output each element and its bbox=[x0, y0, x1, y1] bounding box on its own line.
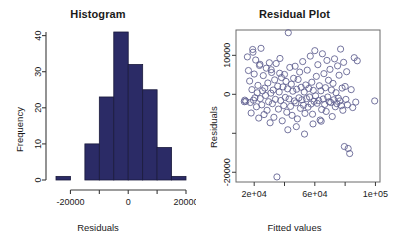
residual-y-tick-label: 0 bbox=[222, 92, 232, 97]
residual-points bbox=[241, 30, 378, 180]
histogram-bar bbox=[128, 64, 142, 180]
histogram-y-tick-label: 20 bbox=[33, 103, 43, 113]
histogram-panel: Histogram Frequency 010203040-2000002000… bbox=[0, 0, 196, 244]
scatter-point bbox=[247, 78, 253, 84]
histogram-title: Histogram bbox=[0, 8, 196, 20]
scatter-point bbox=[309, 79, 315, 85]
histogram-bar bbox=[114, 32, 128, 180]
scatter-point bbox=[279, 118, 285, 124]
histogram-y-tick-label: 10 bbox=[33, 139, 43, 149]
scatter-point bbox=[348, 87, 354, 93]
histogram-bar bbox=[172, 176, 186, 180]
residual-x-tick-label: 6e+04 bbox=[302, 189, 327, 199]
scatter-point bbox=[260, 73, 266, 79]
figure-panel-pair: Histogram Frequency 010203040-2000002000… bbox=[0, 0, 393, 244]
scatter-point bbox=[251, 71, 257, 77]
scatter-point bbox=[248, 110, 254, 116]
scatter-point bbox=[307, 53, 313, 59]
scatter-point bbox=[266, 60, 272, 66]
histogram-x-axis-label: Residuals bbox=[0, 222, 196, 233]
histogram-bar bbox=[56, 176, 70, 180]
scatter-point bbox=[302, 110, 308, 116]
scatter-point bbox=[282, 94, 288, 100]
residual-plot-title: Residual Plot bbox=[196, 8, 393, 20]
scatter-point bbox=[312, 93, 318, 99]
scatter-point bbox=[341, 59, 347, 65]
scatter-point bbox=[309, 111, 315, 117]
scatter-point bbox=[285, 127, 291, 133]
scatter-point bbox=[304, 67, 310, 73]
histogram-y-tick-label: 30 bbox=[33, 67, 43, 77]
residual-plot-area: -200000100002e+046e+041e+05 bbox=[196, 22, 393, 222]
scatter-point bbox=[291, 98, 297, 104]
scatter-point bbox=[353, 99, 359, 105]
scatter-point bbox=[271, 114, 277, 120]
scatter-point bbox=[267, 120, 273, 126]
scatter-point bbox=[294, 116, 300, 122]
scatter-point bbox=[327, 66, 333, 72]
scatter-point bbox=[325, 77, 331, 83]
scatter-point bbox=[337, 46, 343, 52]
residual-x-tick-label: 2e+04 bbox=[242, 189, 267, 199]
scatter-point bbox=[281, 103, 287, 109]
scatter-point bbox=[288, 81, 294, 87]
scatter-point bbox=[265, 99, 271, 105]
scatter-point bbox=[261, 111, 267, 117]
scatter-point bbox=[330, 80, 336, 86]
residual-x-tick-label: 1e+05 bbox=[363, 189, 388, 199]
scatter-point bbox=[322, 85, 328, 91]
scatter-point bbox=[336, 72, 342, 78]
residual-plot-x-axis-label: Fitted values bbox=[196, 222, 393, 233]
scatter-point bbox=[245, 67, 251, 73]
scatter-point bbox=[265, 80, 271, 86]
residual-plot-panel: Residual Plot Residuals -200000100002e+0… bbox=[196, 0, 393, 244]
scatter-point bbox=[264, 107, 270, 113]
histogram-bar bbox=[99, 97, 113, 180]
scatter-point bbox=[319, 51, 325, 57]
histogram-y-tick-label: 0 bbox=[33, 177, 43, 182]
scatter-point bbox=[293, 124, 299, 130]
scatter-point bbox=[310, 121, 316, 127]
scatter-point bbox=[272, 77, 278, 83]
scatter-point bbox=[324, 57, 330, 63]
scatter-point bbox=[269, 101, 275, 107]
scatter-point bbox=[313, 73, 319, 79]
scatter-point bbox=[312, 48, 318, 54]
scatter-point bbox=[329, 113, 335, 119]
residual-y-tick-label: 10000 bbox=[222, 43, 232, 68]
residual-y-tick-label: -20000 bbox=[222, 158, 232, 186]
scatter-point bbox=[290, 88, 296, 94]
scatter-point bbox=[297, 69, 303, 75]
scatter-point bbox=[301, 131, 307, 137]
scatter-point bbox=[244, 54, 250, 60]
scatter-point bbox=[291, 75, 297, 81]
histogram-x-tick-label: 20000 bbox=[173, 197, 196, 207]
scatter-point bbox=[259, 102, 265, 108]
histogram-bar bbox=[143, 90, 157, 180]
scatter-point bbox=[258, 45, 264, 51]
scatter-point bbox=[341, 143, 347, 149]
histogram-bar bbox=[85, 144, 99, 180]
scatter-point bbox=[277, 55, 283, 61]
scatter-point bbox=[322, 101, 328, 107]
histogram-y-tick-label: 40 bbox=[33, 31, 43, 41]
histogram-x-tick-label: 0 bbox=[126, 197, 131, 207]
scatter-point bbox=[328, 87, 334, 93]
scatter-point bbox=[285, 30, 291, 36]
scatter-point bbox=[255, 82, 261, 88]
scatter-point bbox=[274, 174, 280, 180]
residual-plot-frame bbox=[236, 30, 380, 182]
histogram-plot-area: 010203040-20000020000 bbox=[0, 22, 196, 222]
scatter-point bbox=[331, 56, 337, 62]
histogram-bars bbox=[56, 32, 186, 180]
scatter-point bbox=[295, 76, 301, 82]
histogram-x-tick-label: -20000 bbox=[56, 197, 84, 207]
scatter-point bbox=[334, 63, 340, 69]
scatter-point bbox=[321, 71, 327, 77]
scatter-point bbox=[344, 69, 350, 75]
scatter-point bbox=[315, 62, 321, 68]
scatter-point bbox=[300, 58, 306, 64]
scatter-point bbox=[372, 98, 378, 104]
histogram-bar bbox=[157, 148, 171, 180]
